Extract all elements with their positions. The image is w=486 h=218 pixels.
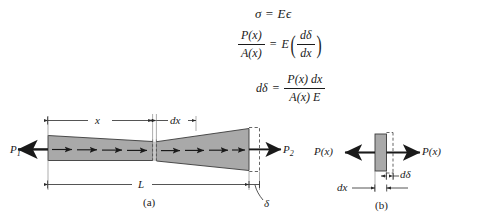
equation-2-relation: = (270, 37, 277, 52)
panel-b-differential-element: P(x) P(x) dδ dx (b) (300, 110, 486, 218)
equation-2-rhs-lead: E (281, 37, 288, 51)
equation-differential-elongation: dδ= P(x) dx A(x) E (256, 72, 325, 105)
label-px-right: P(x) (422, 145, 441, 157)
dimension-line-x (48, 117, 153, 125)
label-px-left: P(x) (314, 145, 333, 157)
dimension-line-delta (249, 181, 260, 188)
caption-panel-b: (b) (375, 199, 388, 211)
label-p1: P1 (10, 143, 21, 158)
label-p2: P2 (283, 143, 294, 158)
paren-close-icon: ) (316, 32, 321, 57)
caption-panel-a: (a) (143, 196, 155, 208)
label-ddelta: dδ (400, 168, 411, 180)
equation-2-rhs-denominator: dx (297, 44, 315, 61)
differential-element-rect (375, 134, 387, 171)
equation-3-rhs-denominator: A(x) E (284, 88, 325, 105)
dimension-line-dx-b (352, 185, 408, 192)
equation-2-lhs-fraction: P(x) A(x) (238, 28, 265, 61)
equation-3-lhs: dδ (256, 81, 268, 95)
equation-3-rhs-fraction: P(x) dx A(x) E (284, 72, 325, 105)
equation-stress-strain-differential: P(x) A(x) =E( dδ dx ) (238, 28, 323, 61)
paren-open-icon: ( (290, 32, 295, 57)
equation-3-relation: = (273, 81, 280, 96)
equation-3-rhs-numerator: P(x) dx (284, 72, 325, 88)
equation-2-lhs-numerator: P(x) (238, 28, 265, 44)
label-dim-dx: dx (170, 114, 180, 126)
internal-force-arrows-right (161, 150, 245, 151)
equation-1-relation: = (266, 6, 274, 21)
equation-hookes-law: σ=Eϵ (255, 6, 292, 22)
panel-b-drawing (300, 110, 486, 218)
label-dim-x: x (95, 114, 100, 126)
equation-2-lhs-denominator: A(x) (238, 44, 265, 61)
delta-leader-line (255, 185, 263, 200)
equation-1-rhs: Eϵ (278, 6, 292, 21)
panel-a-tapered-bar: P1 P2 x dx L δ (a) (0, 105, 300, 218)
equation-2-rhs-numerator: dδ (297, 28, 315, 44)
panel-b-extension-lines (375, 171, 393, 192)
dimension-line-L (48, 181, 249, 189)
equation-block: σ=Eϵ P(x) A(x) =E( dδ dx ) dδ= P(x) dx A… (0, 0, 486, 108)
label-dx-b: dx (337, 181, 347, 193)
equation-2-rhs-fraction: dδ dx (297, 28, 315, 61)
equation-1-lhs: σ (255, 6, 262, 21)
label-elongation-delta: δ (264, 197, 269, 209)
dimension-line-ddelta (381, 173, 399, 180)
label-dim-L: L (138, 178, 144, 190)
